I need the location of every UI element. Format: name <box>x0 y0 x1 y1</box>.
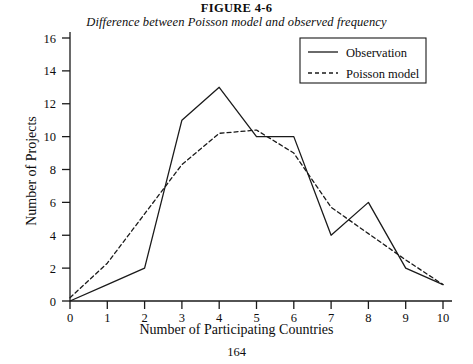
y-tick-label: 16 <box>44 32 57 46</box>
y-tick-label: 2 <box>50 262 56 276</box>
legend-label: Poisson model <box>346 67 420 81</box>
line-chart: 0246810121416 012345678910 ObservationPo… <box>0 0 473 364</box>
y-axis-title: Number of Projects <box>24 61 40 281</box>
page-number: 164 <box>0 345 473 360</box>
chart-legend: ObservationPoisson model <box>300 38 426 83</box>
series-line-observation <box>70 87 443 301</box>
data-series-group <box>70 87 443 301</box>
y-tick-label: 10 <box>44 130 57 144</box>
y-tick-label: 4 <box>50 229 57 243</box>
y-tick-label: 12 <box>44 97 57 111</box>
series-line-poisson-model <box>70 130 443 298</box>
x-axis-title: Number of Participating Countries <box>0 322 473 338</box>
legend-label: Observation <box>346 46 408 60</box>
y-tick-label: 0 <box>50 295 56 309</box>
figure-container: FIGURE 4-6 Difference between Poisson mo… <box>0 0 473 364</box>
y-tick-label: 14 <box>44 64 57 78</box>
y-axis-ticks: 0246810121416 <box>44 32 71 309</box>
y-tick-label: 8 <box>50 163 56 177</box>
y-tick-label: 6 <box>50 196 56 210</box>
